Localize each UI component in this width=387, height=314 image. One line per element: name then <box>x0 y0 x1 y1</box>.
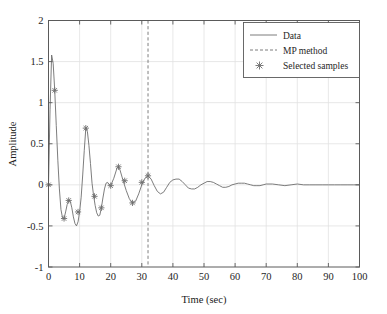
sample-marker <box>98 205 104 211</box>
chart-figure: 0102030405060708090100 -1-0.500.511.52 T… <box>0 0 387 314</box>
sample-marker <box>145 173 151 179</box>
sample-marker <box>52 87 58 93</box>
sample-marker <box>108 183 114 189</box>
sample-marker <box>139 179 145 185</box>
x-tick-label: 90 <box>323 271 334 282</box>
sample-marker <box>83 125 89 131</box>
y-tick-label: 1 <box>38 97 43 108</box>
x-tick-label: 30 <box>137 271 148 282</box>
legend-swatch-selected-samples <box>256 62 264 70</box>
sample-marker <box>129 200 135 206</box>
x-axis-title: Time (sec) <box>182 294 227 306</box>
x-tick-label: 50 <box>199 271 210 282</box>
x-tick-label: 60 <box>230 271 241 282</box>
x-tick-label: 10 <box>74 271 85 282</box>
y-tick-label: 0.5 <box>30 138 43 149</box>
sample-marker <box>122 178 128 184</box>
y-tick-label: -0.5 <box>27 221 44 232</box>
x-tick-label: 70 <box>261 271 272 282</box>
x-tick-label: 80 <box>292 271 303 282</box>
legend-label-selected-samples: Selected samples <box>283 61 348 71</box>
sample-marker <box>75 209 81 215</box>
x-tick-label: 0 <box>46 271 51 282</box>
x-tick-label: 40 <box>168 271 179 282</box>
chart-legend: Data MP method Selected samples <box>244 23 360 78</box>
legend-label-data: Data <box>283 31 302 41</box>
sample-marker <box>61 215 67 221</box>
x-tick-label: 20 <box>105 271 116 282</box>
damped-oscillation-plot: 0102030405060708090100 -1-0.500.511.52 T… <box>0 0 387 314</box>
y-tick-label: -1 <box>35 262 44 273</box>
y-tick-label: 0 <box>38 179 43 190</box>
sample-marker <box>91 193 97 199</box>
y-axis-title: Amplitude <box>7 121 18 166</box>
y-tick-label: 1.5 <box>30 56 43 67</box>
sample-marker <box>66 197 72 203</box>
x-tick-label: 100 <box>352 271 368 282</box>
sample-marker <box>115 164 121 170</box>
y-tick-label: 2 <box>38 15 43 26</box>
legend-label-mp-method: MP method <box>283 46 327 56</box>
